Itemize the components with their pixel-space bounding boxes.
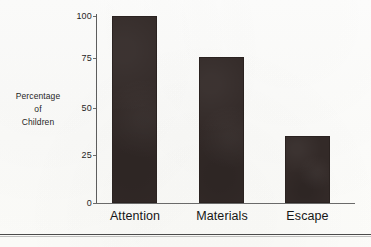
y-tick-mark-0 (93, 203, 96, 204)
bar-materials (199, 57, 244, 203)
y-tick-label-100: 100 (52, 11, 92, 21)
y-axis-title-line-2: of (6, 103, 70, 116)
y-tick-label-0: 0 (52, 198, 92, 208)
y-axis-line (96, 14, 97, 204)
y-tick-label-75: 75 (52, 53, 92, 63)
x-category-label-materials: Materials (181, 208, 263, 224)
y-tick-mark-100 (93, 16, 96, 17)
y-tick-mark-75 (93, 58, 96, 59)
bottom-divider-rule (0, 234, 371, 235)
x-category-label-escape: Escape (269, 208, 346, 224)
bar-escape (285, 136, 330, 203)
y-tick-mark-25 (93, 155, 96, 156)
y-axis-title-line-3: Children (6, 116, 70, 129)
y-axis-title-line-1: Percentage (6, 90, 70, 103)
y-axis-title: Percentage of Children (6, 90, 70, 129)
bar-chart-figure: 100 75 50 25 0 Percentage of Children At… (0, 0, 371, 247)
plot-area: 100 75 50 25 0 Percentage of Children At… (0, 0, 371, 247)
bottom-divider-rule-shadow (0, 236, 371, 237)
x-category-label-attention: Attention (94, 208, 176, 224)
bar-attention (112, 16, 157, 203)
x-axis-line (96, 203, 355, 204)
y-tick-label-25: 25 (52, 150, 92, 160)
y-tick-mark-50 (93, 108, 96, 109)
